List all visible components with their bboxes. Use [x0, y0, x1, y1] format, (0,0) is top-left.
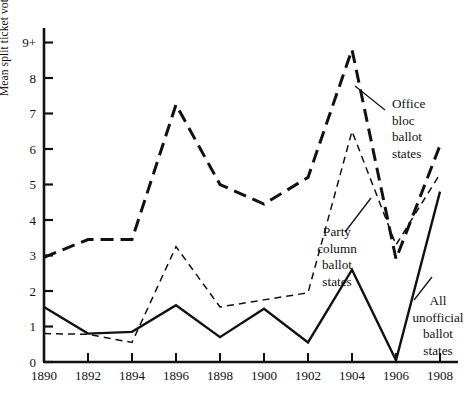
- annotation-line: column: [317, 241, 357, 256]
- y-tick-label: 9+: [22, 35, 36, 50]
- data-series-layer: [44, 50, 440, 361]
- y-tick-label: 3: [30, 248, 37, 263]
- leader-office-bloc: [355, 86, 385, 110]
- x-tick-label: 1906: [383, 368, 410, 383]
- x-tick-label: 1898: [207, 368, 233, 383]
- annotation-line: bloc: [392, 113, 415, 128]
- y-tick-label: 4: [30, 213, 37, 228]
- y-tick-label: 1: [30, 319, 37, 334]
- x-axis-ticks: 1890189218941896189819001902190419061908: [31, 353, 453, 383]
- axes: [44, 28, 458, 362]
- chart-figure: Mean split ticket voting percents 012345…: [0, 0, 470, 393]
- annotation-line: states: [392, 146, 421, 161]
- series-line-3: [44, 192, 440, 361]
- x-tick-label: 1908: [427, 368, 453, 383]
- annotation-line: states: [322, 274, 351, 289]
- annotation-office-bloc: Officeblocballotstates: [392, 96, 426, 161]
- plot-area: 0123456789+ 1890189218941896189819001902…: [0, 0, 470, 393]
- y-tick-label: 5: [30, 177, 37, 192]
- x-tick-label: 1904: [339, 368, 366, 383]
- x-tick-label: 1900: [251, 368, 277, 383]
- x-tick-label: 1892: [75, 368, 101, 383]
- x-tick-label: 1894: [119, 368, 146, 383]
- annotation-all-unofficial: Allunofficialballotstates: [412, 293, 463, 358]
- annotation-line: ballot: [392, 129, 422, 144]
- y-tick-label: 7: [30, 106, 37, 121]
- x-tick-label: 1896: [163, 368, 190, 383]
- y-axis-ticks: 0123456789+: [22, 35, 53, 370]
- x-tick-label: 1890: [31, 368, 57, 383]
- x-tick-label: 1902: [295, 368, 321, 383]
- y-tick-label: 6: [30, 142, 37, 157]
- annotation-line: unofficial: [412, 310, 463, 325]
- series-line-1: [44, 50, 440, 259]
- annotation-line: Party: [323, 224, 351, 239]
- y-tick-label: 8: [30, 71, 37, 86]
- annotation-line: ballot: [423, 326, 453, 341]
- annotation-line: Office: [392, 96, 426, 111]
- y-tick-label: 2: [30, 284, 37, 299]
- annotation-line: states: [423, 343, 452, 358]
- annotation-line: All: [430, 293, 447, 308]
- annotation-party-column: Partycolumnballotstates: [317, 224, 357, 289]
- annotation-line: ballot: [322, 257, 352, 272]
- series-line-2: [44, 131, 440, 342]
- y-axis-title: Mean split ticket voting percents: [0, 0, 10, 96]
